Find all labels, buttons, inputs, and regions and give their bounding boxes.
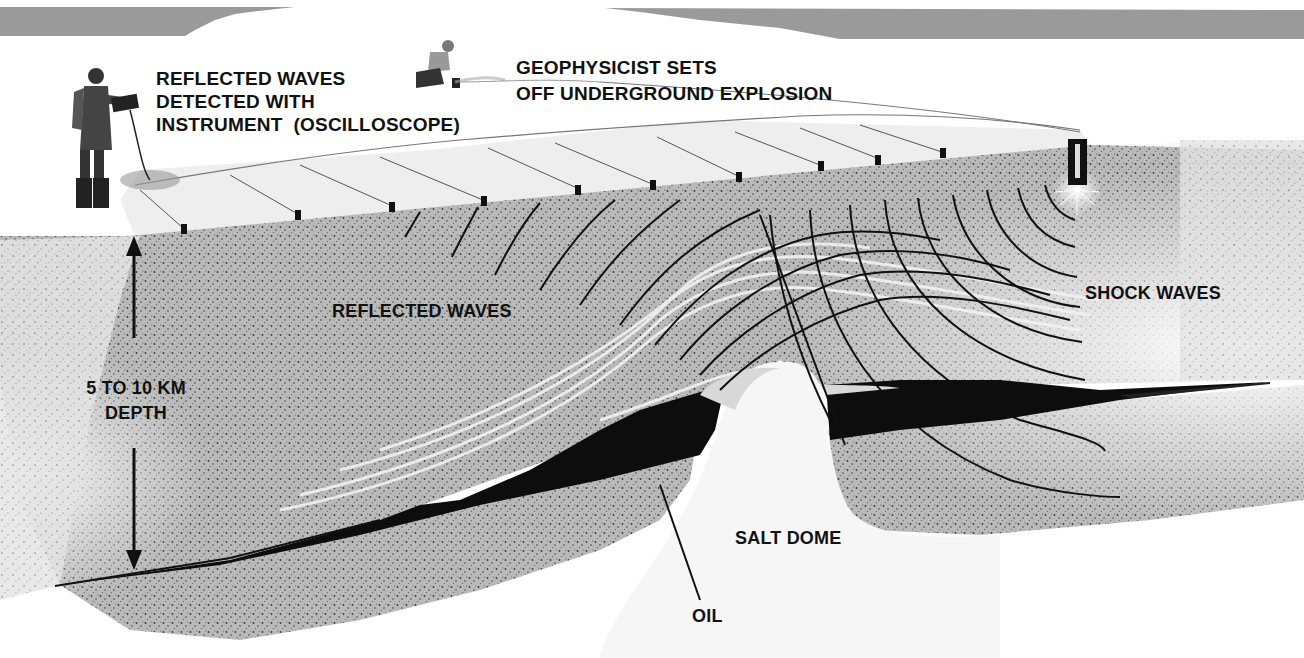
top-banner — [0, 7, 1304, 39]
dynamite-charge — [1068, 139, 1087, 185]
depth-label-line-1: 5 TO 10 KM — [74, 376, 198, 401]
geophysicist-label-line-2: OFF UNDERGROUND EXPLOSION — [516, 81, 832, 107]
oil-label: OIL — [692, 605, 723, 628]
shock-waves-label: SHOCK WAVES — [1085, 282, 1221, 305]
detector-label-line-1: REFLECTED WAVES — [156, 67, 460, 90]
detector-label-line-2: DETECTED WITH — [156, 90, 460, 113]
geophysicist-label: GEOPHYSICIST SETS OFF UNDERGROUND EXPLOS… — [516, 55, 832, 107]
seismic-survey-diagram: REFLECTED WAVES DETECTED WITH INSTRUMENT… — [0, 0, 1304, 658]
depth-label-line-2: DEPTH — [74, 401, 198, 426]
reflected-waves-label: REFLECTED WAVES — [332, 300, 512, 323]
depth-label: 5 TO 10 KM DEPTH — [74, 376, 198, 426]
detector-label-line-3: INSTRUMENT (OSCILLOSCOPE) — [156, 113, 460, 136]
detector-label: REFLECTED WAVES DETECTED WITH INSTRUMENT… — [156, 67, 460, 136]
geophysicist-label-line-1: GEOPHYSICIST SETS — [516, 55, 832, 81]
salt-dome-label: SALT DOME — [735, 527, 841, 550]
